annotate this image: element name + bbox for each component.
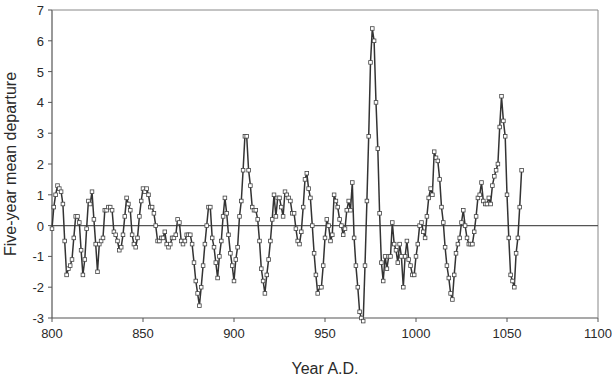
data-point-marker bbox=[361, 319, 365, 323]
y-tick-label: 2 bbox=[37, 157, 44, 172]
data-point-marker bbox=[161, 236, 165, 240]
x-ticks: 800850900950100010501100 bbox=[41, 318, 612, 341]
data-point-marker bbox=[265, 273, 269, 277]
data-point-marker bbox=[129, 208, 133, 212]
data-point-marker bbox=[72, 236, 76, 240]
data-point-marker bbox=[68, 264, 72, 268]
data-point-marker bbox=[125, 196, 129, 200]
data-point-marker bbox=[154, 224, 158, 228]
data-point-marker bbox=[123, 215, 127, 219]
data-point-marker bbox=[221, 215, 225, 219]
data-point-marker bbox=[442, 221, 446, 225]
data-point-marker bbox=[70, 258, 74, 262]
y-tick-label: 7 bbox=[37, 3, 44, 18]
data-point-marker bbox=[349, 208, 353, 212]
data-point-marker bbox=[212, 245, 216, 249]
data-point-marker bbox=[374, 101, 378, 105]
data-point-marker bbox=[307, 187, 311, 191]
y-tick-label: 6 bbox=[37, 34, 44, 49]
data-point-marker bbox=[289, 199, 293, 203]
data-point-marker bbox=[205, 224, 209, 228]
data-point-marker bbox=[354, 264, 358, 268]
data-point-marker bbox=[220, 239, 224, 243]
data-point-marker bbox=[169, 242, 173, 246]
data-point-marker bbox=[260, 267, 264, 271]
x-tick-label: 850 bbox=[132, 326, 154, 341]
data-point-marker bbox=[234, 258, 238, 262]
data-point-marker bbox=[431, 193, 435, 197]
y-tick-label: -3 bbox=[32, 311, 44, 326]
data-point-marker bbox=[152, 212, 156, 216]
data-point-marker bbox=[343, 227, 347, 231]
data-point-marker bbox=[460, 221, 464, 225]
data-point-marker bbox=[371, 27, 375, 31]
data-point-marker bbox=[423, 236, 427, 240]
data-point-marker bbox=[336, 205, 340, 209]
data-point-marker bbox=[230, 264, 234, 268]
data-point-marker bbox=[138, 215, 142, 219]
data-point-marker bbox=[402, 285, 406, 289]
data-point-marker bbox=[487, 196, 491, 200]
data-point-marker bbox=[345, 208, 349, 212]
data-point-marker bbox=[163, 230, 167, 234]
data-point-marker bbox=[380, 261, 384, 265]
data-point-marker bbox=[427, 196, 431, 200]
data-point-marker bbox=[240, 199, 244, 203]
x-tick-label: 800 bbox=[41, 326, 63, 341]
data-point-marker bbox=[489, 202, 493, 206]
data-point-marker bbox=[50, 227, 54, 231]
data-point-marker bbox=[471, 242, 475, 246]
data-point-marker bbox=[209, 205, 213, 209]
data-point-marker bbox=[130, 233, 134, 237]
data-point-marker bbox=[485, 202, 489, 206]
data-point-marker bbox=[474, 215, 478, 219]
data-point-marker bbox=[110, 208, 114, 212]
data-point-marker bbox=[83, 258, 87, 262]
data-point-marker bbox=[462, 208, 466, 212]
y-tick-label: 0 bbox=[37, 219, 44, 234]
data-point-marker bbox=[378, 212, 382, 216]
data-point-marker bbox=[116, 239, 120, 243]
data-point-marker bbox=[145, 187, 149, 191]
data-point-marker bbox=[85, 227, 89, 231]
data-point-marker bbox=[245, 135, 249, 139]
data-point-marker bbox=[514, 252, 518, 256]
data-point-marker bbox=[114, 233, 118, 237]
data-point-marker bbox=[440, 205, 444, 209]
data-point-marker bbox=[267, 258, 271, 262]
data-point-marker bbox=[420, 221, 424, 225]
x-tick-label: 1000 bbox=[402, 326, 431, 341]
data-point-marker bbox=[325, 218, 329, 222]
data-point-marker bbox=[63, 239, 67, 243]
data-point-marker bbox=[449, 292, 453, 296]
data-point-marker bbox=[292, 212, 296, 216]
data-point-marker bbox=[356, 285, 360, 289]
data-point-marker bbox=[76, 215, 80, 219]
data-point-marker bbox=[121, 233, 125, 237]
data-point-marker bbox=[438, 178, 442, 182]
data-point-marker bbox=[192, 261, 196, 265]
data-point-marker bbox=[436, 159, 440, 163]
data-point-marker bbox=[347, 199, 351, 203]
data-point-marker bbox=[405, 239, 409, 243]
data-point-marker bbox=[241, 168, 245, 172]
data-point-marker bbox=[54, 193, 58, 197]
data-point-marker bbox=[454, 252, 458, 256]
data-point-marker bbox=[422, 230, 426, 234]
data-point-marker bbox=[400, 255, 404, 259]
data-point-marker bbox=[218, 255, 222, 259]
data-point-marker bbox=[256, 218, 260, 222]
x-axis-title: Year A.D. bbox=[291, 360, 358, 377]
data-point-marker bbox=[391, 221, 395, 225]
series-markers bbox=[50, 27, 523, 323]
data-point-marker bbox=[511, 279, 515, 283]
data-point-marker bbox=[334, 199, 338, 203]
data-point-marker bbox=[414, 255, 418, 259]
data-point-marker bbox=[341, 233, 345, 237]
data-point-marker bbox=[458, 236, 462, 240]
data-point-marker bbox=[225, 212, 229, 216]
data-point-marker bbox=[210, 236, 214, 240]
data-point-marker bbox=[443, 245, 447, 249]
data-point-marker bbox=[232, 279, 236, 283]
data-point-marker bbox=[496, 162, 500, 166]
